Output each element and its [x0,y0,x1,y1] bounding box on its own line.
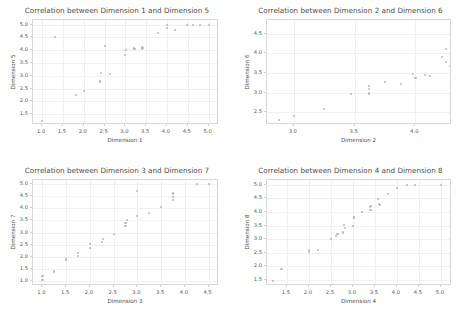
x-tick-label: 1.5 [58,128,66,134]
data-point [100,72,102,74]
x-tick-label: 3.5 [370,289,378,295]
data-point [208,24,210,26]
data-point [352,225,354,227]
gridline-vertical [375,180,376,284]
y-tickmark [30,256,32,257]
x-tick-label: 3.5 [156,289,164,295]
x-tickmark [352,285,353,287]
y-tick-label: 3.0 [254,89,262,95]
y-tickmark [264,92,266,93]
data-point [99,80,101,82]
data-point [379,204,381,206]
y-tick-label: 3.0 [20,229,28,235]
gridline-horizontal [33,269,217,270]
data-point [41,279,43,281]
data-point [369,209,371,211]
x-tickmark [83,124,84,126]
y-tickmark [264,265,266,266]
x-tickmark [293,124,294,126]
gridline-vertical [309,180,310,284]
y-tickmark [30,49,32,50]
x-axis-label: Dimension 4 [341,298,376,304]
data-point [41,275,43,277]
y-axis-label: Dimension 6 [244,54,250,89]
x-tickmark [396,285,397,287]
panel-title: Correlation between Dimension 4 and Dime… [234,166,467,175]
gridline-horizontal [33,196,217,197]
y-tickmark [30,232,32,233]
y-tickmark [264,111,266,112]
data-point [136,190,138,192]
x-tick-label: 5.0 [203,128,211,134]
gridline-horizontal [267,239,450,240]
gridline-vertical [42,20,43,123]
y-axis-label: Dimension 8 [244,214,250,249]
x-tick-label: 2.0 [85,289,93,295]
data-point [344,227,346,229]
x-tick-label: 1.5 [282,289,290,295]
y-tickmark [30,75,32,76]
data-point [172,196,174,198]
y-tickmark [264,72,266,73]
gridline-vertical [63,20,64,123]
y-tickmark [30,268,32,269]
panel-title: Correlation between Dimension 3 and Dime… [0,166,234,175]
x-tickmark [184,285,185,287]
x-tick-label: 1.0 [37,289,45,295]
y-tickmark [30,62,32,63]
data-point [166,24,168,26]
y-tickmark [30,207,32,208]
data-point [186,24,188,26]
y-tick-label: 5.0 [254,181,262,187]
gridline-vertical [415,20,416,123]
x-tickmark [89,285,90,287]
data-point [396,187,398,189]
plot-area [266,19,451,124]
data-point [368,92,370,94]
gridline-vertical [167,20,168,123]
gridline-horizontal [33,184,217,185]
x-tickmark [330,285,331,287]
data-point [125,49,127,51]
x-tickmark [286,285,287,287]
data-point [342,231,344,233]
x-tickmark [414,124,415,126]
x-tick-label: 2.5 [99,128,107,134]
data-point [102,238,104,240]
y-tickmark [264,238,266,239]
data-point [109,73,111,75]
data-point [412,73,414,75]
x-tickmark [418,285,419,287]
data-point [41,120,43,122]
x-tickmark [187,124,188,126]
x-tickmark [41,124,42,126]
gridline-horizontal [33,114,217,115]
gridline-vertical [331,180,332,284]
data-point [83,90,85,92]
panel-title: Correlation between Dimension 1 and Dime… [0,6,234,15]
x-tickmark [41,285,42,287]
y-tickmark [30,219,32,220]
y-tickmark [264,211,266,212]
y-tick-label: 1.5 [20,265,28,271]
y-tick-label: 4.0 [254,208,262,214]
x-tickmark [166,124,167,126]
x-tickmark [208,124,209,126]
x-tick-label: 3.0 [132,289,140,295]
data-point [89,247,91,249]
x-tick-label: 4.5 [183,128,191,134]
x-tickmark [308,285,309,287]
x-tick-label: 4.5 [203,289,211,295]
data-point [101,241,103,243]
x-tick-label: 2.0 [304,289,312,295]
x-tickmark [62,124,63,126]
x-tickmark [113,285,114,287]
gridline-horizontal [33,208,217,209]
gridline-horizontal [267,198,450,199]
y-tickmark [264,279,266,280]
x-tick-label: 2.5 [109,289,117,295]
gridline-vertical [287,180,288,284]
gridline-horizontal [33,245,217,246]
y-tick-label: 2.0 [254,262,262,268]
x-tick-label: 4.0 [180,289,188,295]
